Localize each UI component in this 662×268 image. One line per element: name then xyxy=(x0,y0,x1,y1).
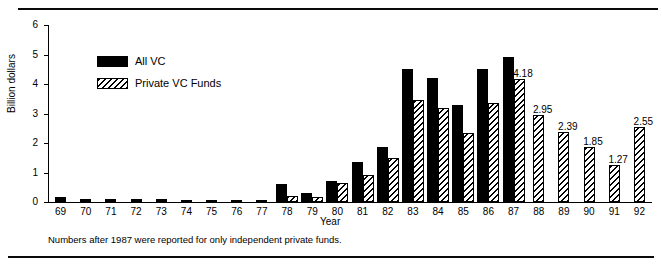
x-axis-title: Year xyxy=(320,216,340,227)
legend-item-private-vc-funds: Private VC Funds xyxy=(97,75,221,91)
bar-slot: 2.5592 xyxy=(627,25,652,202)
bar-slot: 86 xyxy=(476,25,501,202)
bar xyxy=(452,105,463,202)
bar-slot: 73 xyxy=(149,25,174,202)
bar-slot: 71 xyxy=(98,25,123,202)
bar xyxy=(131,199,142,202)
bar xyxy=(231,200,242,202)
bar-slot: 77 xyxy=(249,25,274,202)
bar xyxy=(488,103,499,202)
bar xyxy=(377,147,388,202)
bar-slot: 80 xyxy=(325,25,350,202)
bar-slot: 78 xyxy=(275,25,300,202)
bottom-divider-rule xyxy=(8,256,654,258)
top-divider-rule xyxy=(18,8,658,10)
x-axis-tick-label: 71 xyxy=(105,206,116,217)
chart-footnote: Numbers after 1987 were reported for onl… xyxy=(48,234,342,245)
y-axis-tick: 0 xyxy=(44,202,48,203)
bar xyxy=(80,199,91,202)
bar-slot: 4.1887 xyxy=(501,25,526,202)
bar xyxy=(312,197,323,202)
x-axis-tick-label: 92 xyxy=(634,206,645,217)
bar: 4.18 xyxy=(514,79,525,202)
x-axis-tick-label: 83 xyxy=(407,206,418,217)
bar xyxy=(105,199,116,202)
x-axis-tick-label: 70 xyxy=(80,206,91,217)
y-axis-tick-label: 5 xyxy=(32,50,38,60)
legend-swatch-solid-icon xyxy=(97,56,128,67)
y-axis-tick-label: 6 xyxy=(32,20,38,30)
bar-value-label: 2.39 xyxy=(558,121,577,132)
bar: 2.55 xyxy=(634,127,645,202)
bar-slot: 69 xyxy=(48,25,73,202)
bar-value-label: 2.55 xyxy=(634,116,653,127)
bar-slot: 76 xyxy=(224,25,249,202)
bar-slot: 72 xyxy=(124,25,149,202)
x-axis-tick-label: 85 xyxy=(458,206,469,217)
chart-figure: Billion dollars 0123456 6970717273747576… xyxy=(0,0,662,268)
x-axis-tick-label: 72 xyxy=(131,206,142,217)
bar-slot: 85 xyxy=(451,25,476,202)
bar xyxy=(413,100,424,202)
bar xyxy=(181,200,192,202)
x-axis-tick-label: 87 xyxy=(508,206,519,217)
bar-value-label: 2.95 xyxy=(533,104,552,115)
x-axis-tick-label: 84 xyxy=(433,206,444,217)
bar xyxy=(326,181,337,202)
y-axis-tick-label: 2 xyxy=(32,138,38,148)
bar-slot: 1.8590 xyxy=(577,25,602,202)
bar xyxy=(427,78,438,202)
bar xyxy=(276,184,287,202)
x-axis-tick-label: 82 xyxy=(382,206,393,217)
x-axis-tick-label: 78 xyxy=(282,206,293,217)
x-axis-tick-label: 79 xyxy=(307,206,318,217)
bar-slot: 84 xyxy=(426,25,451,202)
bar-slot: 2.3989 xyxy=(551,25,576,202)
x-axis-tick-label: 77 xyxy=(256,206,267,217)
plot-area: 0123456 69707172737475767778798081828384… xyxy=(48,25,652,202)
bar xyxy=(503,57,514,202)
bar xyxy=(55,197,66,202)
legend-swatch-hatch-icon xyxy=(97,78,128,89)
bar xyxy=(156,199,167,202)
bar-slot: 74 xyxy=(174,25,199,202)
bar xyxy=(287,196,298,202)
x-axis-tick-label: 86 xyxy=(483,206,494,217)
y-axis-tick-label: 3 xyxy=(32,109,38,119)
x-axis-tick-label: 76 xyxy=(231,206,242,217)
x-axis-tick-label: 89 xyxy=(558,206,569,217)
y-axis-title: Billion dollars xyxy=(6,54,17,113)
bar-value-label: 1.27 xyxy=(608,154,627,165)
x-axis-line xyxy=(48,202,652,203)
bar xyxy=(402,69,413,202)
x-axis-tick-label: 75 xyxy=(206,206,217,217)
x-axis-tick-label: 73 xyxy=(156,206,167,217)
bar xyxy=(477,69,488,202)
x-axis-tick-label: 74 xyxy=(181,206,192,217)
bar-slot: 82 xyxy=(375,25,400,202)
bar: 1.85 xyxy=(584,147,595,202)
y-axis-tick-label: 4 xyxy=(32,79,38,89)
x-axis-tick-label: 91 xyxy=(609,206,620,217)
bar xyxy=(337,183,348,202)
x-axis-tick-label: 88 xyxy=(533,206,544,217)
y-axis-tick-label: 0 xyxy=(32,197,38,207)
legend-label-all-vc: All VC xyxy=(135,55,166,67)
bar xyxy=(256,200,267,202)
bar xyxy=(463,133,474,202)
legend-label-private-vc-funds: Private VC Funds xyxy=(135,77,221,89)
x-axis-tick-label: 81 xyxy=(357,206,368,217)
y-axis-tick-label: 1 xyxy=(32,168,38,178)
bar-slot: 70 xyxy=(73,25,98,202)
chart-legend: All VC Private VC Funds xyxy=(97,53,221,97)
bar: 1.27 xyxy=(609,165,620,202)
bar-slot: 1.2791 xyxy=(602,25,627,202)
bar-value-label: 1.85 xyxy=(583,136,602,147)
bar xyxy=(388,158,399,202)
bar xyxy=(438,108,449,202)
bar xyxy=(206,200,217,202)
x-axis-tick-label: 69 xyxy=(55,206,66,217)
bar-slot: 2.9588 xyxy=(526,25,551,202)
x-axis-tick-label: 90 xyxy=(584,206,595,217)
bar: 2.39 xyxy=(558,132,569,203)
